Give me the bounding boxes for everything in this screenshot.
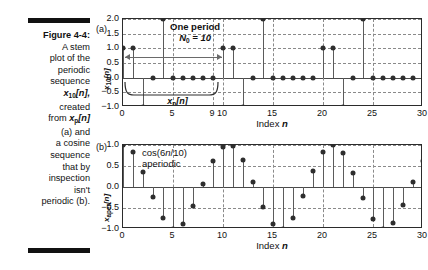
stem-line bbox=[223, 48, 224, 77]
aperiodic-annotation: cos(6n/10)aperiodic bbox=[142, 147, 187, 169]
gridline-horizontal bbox=[123, 48, 421, 49]
stem-line bbox=[243, 78, 244, 106]
caption-line-1: A stem bbox=[62, 42, 90, 52]
stem-marker bbox=[321, 46, 326, 51]
stem-line bbox=[343, 153, 344, 187]
stem-marker bbox=[141, 105, 146, 107]
stem-line bbox=[243, 160, 244, 187]
caption-line-9: that by bbox=[62, 162, 90, 172]
y-axis-tick-label: 0.0 bbox=[106, 181, 119, 191]
figure-caption: Figure 4-4: A stem plot of the periodic … bbox=[4, 30, 90, 208]
stem-line bbox=[323, 48, 324, 77]
caption-line-from: from xp[n] bbox=[48, 113, 90, 123]
y-axis-tick-label: −0.5 bbox=[101, 86, 119, 96]
x-axis-tick-label: 25 bbox=[367, 108, 377, 118]
stem-marker bbox=[221, 46, 226, 51]
stem-line bbox=[393, 187, 394, 223]
aperiodic-line1: cos(6n/10) bbox=[142, 147, 187, 158]
stem-marker bbox=[271, 221, 276, 226]
x-axis-tick-label: 20 bbox=[317, 230, 327, 240]
y-axis-tick-label: 0.5 bbox=[106, 160, 119, 170]
stem-marker bbox=[221, 144, 226, 149]
stem-marker bbox=[131, 150, 136, 155]
one-period-brace bbox=[124, 81, 221, 97]
one-period-line1: One period bbox=[170, 21, 220, 32]
x-axis-tick-label: 5 bbox=[169, 230, 174, 240]
zero-axis-line bbox=[123, 187, 421, 188]
gridline-horizontal bbox=[123, 145, 421, 146]
x-axis-tick-label: 0 bbox=[119, 108, 124, 118]
arrow-head-left bbox=[125, 54, 130, 60]
caption-line-5: created bbox=[59, 102, 90, 112]
stem-line bbox=[123, 145, 124, 187]
y-axis-tick-label: 1.0 bbox=[106, 139, 119, 149]
gridline-horizontal bbox=[123, 63, 421, 64]
stem-marker bbox=[411, 75, 416, 80]
stem-marker bbox=[191, 75, 196, 80]
panel-a-tag: (a) bbox=[96, 24, 107, 34]
stem-line bbox=[133, 48, 134, 77]
stem-line bbox=[383, 187, 384, 228]
x-axis-tick-label: 15 bbox=[267, 230, 277, 240]
stem-marker bbox=[351, 171, 356, 176]
stem-marker bbox=[231, 144, 236, 148]
stem-marker bbox=[241, 105, 246, 107]
caption-rule-bottom bbox=[28, 248, 90, 253]
stem-marker bbox=[271, 75, 276, 80]
stem-marker bbox=[231, 46, 236, 51]
stem-marker bbox=[122, 144, 126, 148]
x-axis-tick-label: 20 bbox=[317, 108, 327, 118]
aperiodic-line2: aperiodic bbox=[142, 158, 181, 169]
stem-line bbox=[283, 187, 284, 228]
caption-line-11: isn't bbox=[74, 185, 90, 195]
stem-line bbox=[343, 78, 344, 106]
stem-line bbox=[323, 152, 324, 187]
stem-marker bbox=[281, 227, 286, 229]
panel-b-tag: (b) bbox=[96, 142, 107, 152]
stem-line bbox=[233, 146, 234, 187]
stem-marker bbox=[191, 204, 196, 209]
panel-b-plot-area: cos(6n/10)aperiodic bbox=[122, 144, 422, 228]
figure-caption-column: Figure 4-4: A stem plot of the periodic … bbox=[0, 0, 96, 270]
stem-marker bbox=[211, 159, 216, 164]
caption-line-12: periodic (b). bbox=[41, 196, 90, 206]
stem-marker bbox=[291, 215, 296, 220]
stem-marker bbox=[151, 75, 156, 80]
panel-a-plot-area: One periodN0 = 10xp[n] bbox=[122, 18, 422, 106]
stem-marker bbox=[401, 203, 406, 208]
stem-marker bbox=[141, 169, 146, 174]
stem-marker bbox=[181, 221, 186, 226]
caption-rule-top bbox=[28, 18, 90, 23]
caption-line-3: periodic bbox=[58, 65, 90, 75]
stem-marker bbox=[341, 150, 346, 155]
stem-line bbox=[223, 147, 224, 187]
stem-marker bbox=[311, 169, 316, 174]
stem-marker bbox=[251, 180, 256, 185]
caption-line-2: plot of the bbox=[50, 53, 90, 63]
stem-line bbox=[133, 152, 134, 187]
x-axis-tick-label: 25 bbox=[367, 230, 377, 240]
y-axis-tick-label: 0.0 bbox=[106, 72, 119, 82]
caption-math-x10: x10[n], bbox=[63, 88, 90, 98]
y-axis-tick-label: 1.0 bbox=[106, 42, 119, 52]
y-axis-tick-label: 2.0 bbox=[106, 13, 119, 23]
gridline-vertical bbox=[273, 19, 274, 105]
gridline-horizontal bbox=[123, 19, 421, 20]
stem-marker bbox=[161, 216, 166, 221]
chart-panel-a: (a) x10[n] One periodN0 = 10xp[n] Index … bbox=[96, 8, 428, 130]
stem-line bbox=[163, 187, 164, 218]
caption-line-7: a cosine bbox=[56, 138, 90, 148]
stem-line bbox=[233, 48, 234, 77]
gridline-horizontal bbox=[123, 208, 421, 209]
y-axis-tick-label: 0.5 bbox=[106, 57, 119, 67]
stem-marker bbox=[131, 46, 136, 51]
stem-marker bbox=[401, 75, 406, 80]
stem-line bbox=[123, 48, 124, 77]
stem-marker bbox=[211, 75, 216, 80]
stem-marker bbox=[261, 18, 266, 22]
stem-marker bbox=[331, 46, 336, 51]
stem-marker bbox=[361, 195, 366, 200]
stem-marker bbox=[421, 158, 423, 163]
stem-marker bbox=[301, 193, 306, 198]
y-axis-tick-label: −0.5 bbox=[101, 202, 119, 212]
